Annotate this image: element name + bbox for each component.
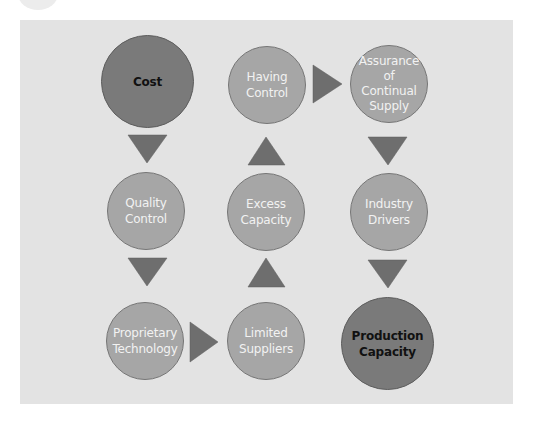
node-proprietary-technology: Proprietary Technology — [106, 302, 184, 380]
node-label: Production Capacity — [352, 328, 424, 360]
node-assurance-of-continual-supply: Assurance of Continual Supply — [350, 45, 428, 123]
node-cost: Cost — [101, 35, 194, 128]
node-label: Industry Drivers — [365, 196, 413, 228]
node-label: Proprietary Technology — [112, 325, 177, 357]
node-production-capacity: Production Capacity — [341, 297, 434, 390]
node-label: Assurance of Continual Supply — [359, 54, 419, 114]
node-label: Quality Control — [125, 195, 167, 227]
node-excess-capacity: Excess Capacity — [227, 173, 305, 251]
node-industry-drivers: Industry Drivers — [350, 173, 428, 251]
diagram-stage: Cost Having Control Assurance of Continu… — [0, 0, 536, 425]
node-limited-suppliers: Limited Suppliers — [227, 302, 305, 380]
node-label: Excess Capacity — [241, 196, 292, 228]
node-label: Limited Suppliers — [239, 325, 293, 357]
node-label: Cost — [133, 74, 162, 90]
decorative-corner-shape — [18, 0, 58, 10]
node-quality-control: Quality Control — [107, 172, 185, 250]
node-having-control: Having Control — [228, 46, 306, 124]
node-label: Having Control — [246, 69, 288, 101]
